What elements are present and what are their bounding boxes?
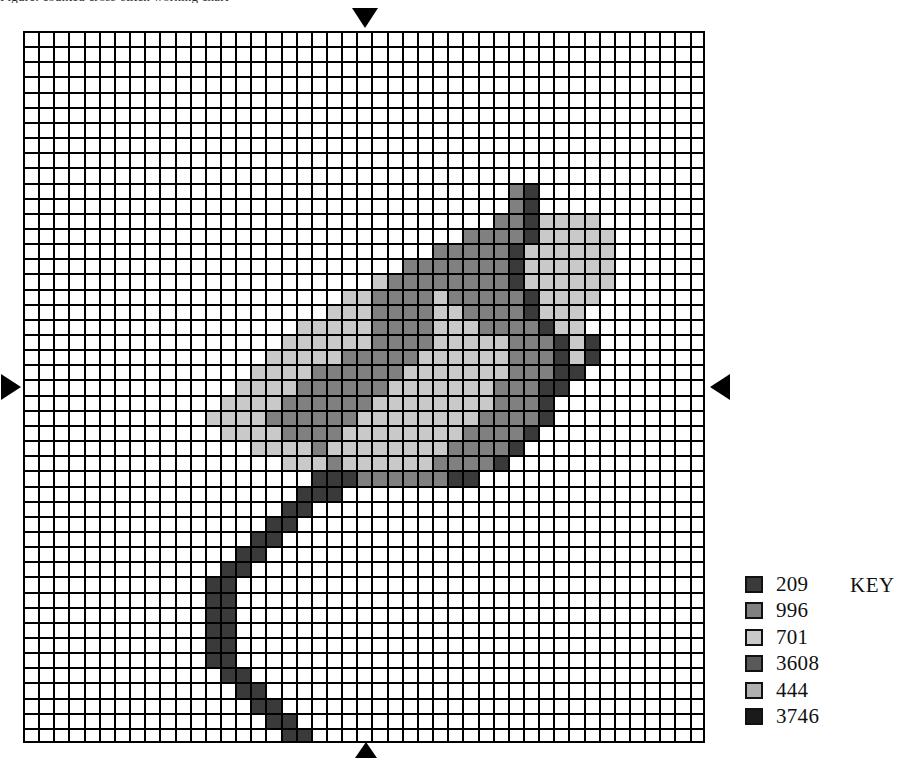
legend-label: 209	[776, 574, 808, 595]
legend-label: 996	[776, 600, 808, 621]
legend-row: 996	[745, 598, 905, 625]
legend-row: 701	[745, 624, 905, 651]
center-marker-right-icon	[710, 374, 730, 400]
legend-label: 3746	[776, 706, 819, 727]
chart-grid-canvas	[23, 31, 705, 743]
center-marker-top-icon	[352, 8, 378, 28]
legend: KEY 20999670136084443746	[745, 571, 905, 730]
legend-label: 3608	[776, 653, 819, 674]
legend-swatch	[745, 708, 763, 725]
cross-stitch-chart	[23, 31, 705, 743]
legend-title: KEY	[850, 573, 895, 598]
legend-row: 3608	[745, 651, 905, 678]
legend-swatch	[745, 682, 763, 699]
legend-swatch	[745, 602, 763, 619]
legend-label: 444	[776, 680, 808, 701]
legend-row: 444	[745, 677, 905, 704]
legend-row: 3746	[745, 704, 905, 731]
caption-text: Figure: counted cross-stitch working cha…	[0, 0, 700, 3]
center-marker-bottom-icon	[355, 742, 377, 758]
legend-swatch	[745, 655, 763, 672]
legend-label: 701	[776, 627, 808, 648]
legend-swatch	[745, 576, 763, 593]
legend-swatch	[745, 629, 763, 646]
center-marker-left-icon	[1, 374, 21, 400]
